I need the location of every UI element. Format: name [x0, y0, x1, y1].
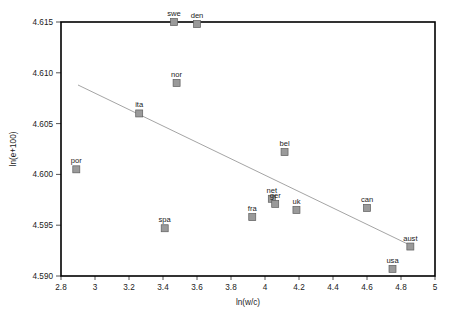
x-tick-label: 4.8 [395, 283, 407, 292]
y-axis-title: ln(e+100) [9, 131, 18, 166]
point-label: uk [292, 197, 300, 206]
point-marker [171, 19, 178, 26]
x-tick-labels: 2.833.23.43.63.844.24.44.64.85 [55, 283, 437, 292]
x-tick-label: 3 [93, 283, 98, 292]
point-marker [364, 204, 371, 211]
point-label: swe [167, 9, 181, 18]
data-point: usa [386, 256, 399, 273]
point-marker [281, 149, 288, 156]
point-label: den [191, 11, 204, 20]
point-label: bel [279, 139, 289, 148]
point-label: spa [159, 215, 172, 224]
y-tick-label: 4.615 [33, 18, 54, 27]
x-tick-label: 3.2 [123, 283, 135, 292]
point-marker [136, 110, 143, 117]
point-label: ger [270, 191, 281, 200]
x-tick-label: 4.6 [361, 283, 373, 292]
data-point: uk [292, 197, 300, 214]
x-tick-label: 2.8 [55, 283, 67, 292]
point-label: nor [171, 70, 182, 79]
scatter-plot-figure: 2.833.23.43.63.844.24.44.64.85 4.5904.59… [0, 0, 456, 317]
x-tick-label: 4.4 [327, 283, 339, 292]
point-label: fra [248, 204, 258, 213]
plot-frame [61, 22, 435, 276]
point-label: aust [403, 234, 418, 243]
x-tick-label: 3.6 [191, 283, 203, 292]
data-point: spa [159, 215, 172, 232]
y-tick-label: 4.605 [33, 120, 54, 129]
data-point: can [361, 195, 373, 212]
point-label: ita [135, 100, 144, 109]
y-tick-labels: 4.5904.5954.6004.6054.6104.615 [33, 18, 54, 281]
point-marker [173, 79, 180, 86]
regression-line [78, 85, 413, 247]
y-tick-label: 4.590 [33, 272, 54, 281]
point-marker [293, 206, 300, 213]
x-tick-label: 3.4 [157, 283, 169, 292]
x-tick-label: 4 [263, 283, 268, 292]
point-label: por [71, 156, 82, 165]
x-tick-label: 3.8 [225, 283, 237, 292]
data-point: swe [167, 9, 181, 26]
point-marker [194, 21, 201, 28]
data-point: nor [171, 70, 182, 87]
data-point: por [71, 156, 82, 173]
data-point: den [191, 11, 204, 28]
chart-canvas: 2.833.23.43.63.844.24.44.64.85 4.5904.59… [0, 0, 456, 317]
x-tick-label: 5 [433, 283, 438, 292]
point-marker [73, 166, 80, 173]
y-tick-label: 4.600 [33, 170, 54, 179]
data-points: swedennoritabelpornetgerukcanfraspaaustu… [71, 9, 419, 272]
data-point: aust [403, 234, 418, 251]
data-point: ger [270, 191, 281, 208]
point-label: usa [386, 256, 399, 265]
point-marker [407, 243, 414, 250]
data-point: bel [279, 139, 289, 156]
x-axis-title: ln(w/c) [236, 298, 260, 307]
point-marker [161, 225, 168, 232]
data-point: ita [135, 100, 144, 117]
point-marker [272, 200, 279, 207]
point-marker [249, 214, 256, 221]
data-point: fra [248, 204, 258, 221]
point-marker [389, 265, 396, 272]
y-tick-label: 4.610 [33, 69, 54, 78]
point-label: can [361, 195, 373, 204]
y-tick-label: 4.595 [33, 221, 54, 230]
x-tick-label: 4.2 [293, 283, 305, 292]
